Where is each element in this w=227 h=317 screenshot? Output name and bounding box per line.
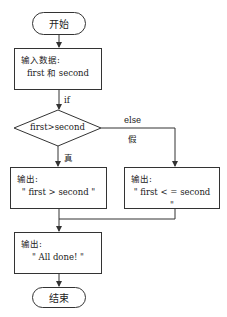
output-true-content: " first > second " — [17, 186, 100, 199]
output-true-title: 输出: — [17, 173, 100, 186]
output-done-box: 输出: " All done! " — [14, 232, 102, 274]
start-label: 开始 — [49, 16, 69, 31]
output-true-box: 输出: " first > second " — [10, 167, 107, 209]
decision-condition: first>second — [14, 122, 101, 132]
if-label: if — [64, 95, 70, 105]
start-terminal: 开始 — [32, 12, 86, 35]
output-false-box: 输出: " first < = second " — [124, 167, 220, 209]
else-label: else — [124, 115, 141, 125]
end-terminal: 结束 — [32, 287, 86, 308]
false-label: 假 — [128, 132, 137, 144]
input-content: first 和 second — [21, 67, 95, 80]
output-false-content: " first < = second " — [131, 186, 213, 212]
input-box: 输入数据: first 和 second — [14, 48, 102, 90]
true-label: 真 — [64, 151, 73, 163]
output-done-title: 输出: — [21, 238, 95, 251]
output-done-content: " All done! " — [21, 251, 95, 264]
input-title: 输入数据: — [21, 54, 95, 67]
output-false-title: 输出: — [131, 173, 213, 186]
end-label: 结束 — [49, 290, 69, 305]
